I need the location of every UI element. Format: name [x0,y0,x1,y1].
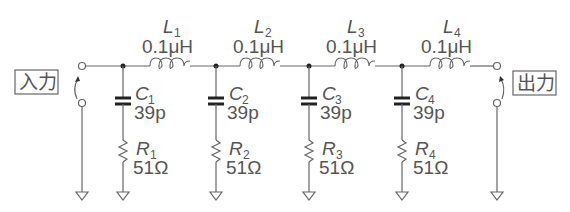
inductor-icon [430,58,470,69]
inductor-L1: L 1 0.1μH [142,16,193,69]
svg-text:39p: 39p [320,102,352,123]
resistor-icon [119,140,127,162]
shunt-branch-1: C 1 39p R 1 51Ω [115,64,168,201]
input-label: 入力 [19,72,57,93]
svg-text:51Ω: 51Ω [413,157,448,178]
svg-text:R: R [136,138,150,159]
svg-text:39p: 39p [413,102,445,123]
svg-text:R: R [229,138,243,159]
inductor-icon [335,58,375,69]
inductor-L4: L 4 0.1μH [421,16,472,69]
input-voltage-arrow [75,79,78,99]
svg-text:0.1μH: 0.1μH [326,36,377,57]
ground-icon [396,192,408,200]
svg-text:0.1μH: 0.1μH [233,36,284,57]
inductor-icon [240,58,280,69]
svg-text:39p: 39p [134,102,166,123]
ground-icon [303,192,315,200]
svg-text:L: L [347,16,358,37]
svg-text:R: R [415,138,429,159]
input-port: 入力 [15,63,88,201]
svg-text:C: C [135,83,149,104]
input-terminal-top [79,63,86,70]
svg-text:0.1μH: 0.1μH [421,36,472,57]
ground-icon [76,192,88,200]
svg-text:39p: 39p [227,102,259,123]
svg-text:L: L [443,16,454,37]
output-label: 出力 [517,73,555,94]
svg-text:51Ω: 51Ω [133,157,168,178]
shunt-branch-2: C 2 39p R 2 51Ω [208,64,261,201]
output-port: 出力 [491,63,556,201]
svg-text:C: C [322,83,336,104]
circuit-diagram: 入力 L 1 0.1μH L 2 0.1μH L 3 0.1μH L 4 0. [0,0,570,212]
shunt-branch-3: C 3 39p R 3 51Ω [301,64,354,201]
svg-text:0.1μH: 0.1μH [142,36,193,57]
svg-text:51Ω: 51Ω [319,157,354,178]
output-terminal-bottom [494,100,501,107]
input-terminal-bottom [79,100,86,107]
ground-icon [117,192,129,200]
inductor-L3: L 3 0.1μH [326,16,377,69]
inductor-L2: L 2 0.1μH [233,16,284,69]
svg-text:L: L [163,16,174,37]
inductor-icon [150,58,190,69]
shunt-branch-4: C 4 39p R 4 51Ω [394,64,448,201]
svg-text:R: R [322,138,336,159]
svg-text:51Ω: 51Ω [226,157,261,178]
ground-icon [210,192,222,200]
svg-text:C: C [415,83,429,104]
resistor-icon [212,140,220,162]
output-voltage-arrow [501,79,504,99]
svg-text:L: L [254,16,265,37]
ground-icon [491,192,503,200]
resistor-icon [305,140,313,162]
arrow-head-icon [75,76,80,82]
resistor-icon [398,140,406,162]
output-terminal-top [494,63,501,70]
svg-text:C: C [229,83,243,104]
